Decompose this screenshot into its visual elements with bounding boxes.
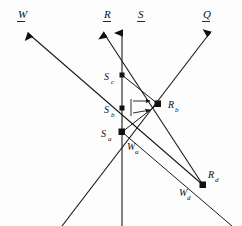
- axis-label-Q-text: Q: [203, 8, 211, 20]
- axis-label-Q: Q: [202, 8, 211, 22]
- node-label-Wa-sub: a: [135, 148, 139, 156]
- node-label-Rd-sub: d: [215, 176, 219, 184]
- axis-label-W: W: [17, 8, 28, 22]
- node-label-Wa: W a: [127, 141, 139, 156]
- node-label-Rb: R b: [167, 99, 179, 114]
- node-Rd: [200, 182, 207, 189]
- axis-label-S: S: [137, 8, 145, 22]
- node-label-Rb-base: R: [167, 99, 174, 110]
- vector-ray-diagram: W R S Q S c S b S a R b: [0, 0, 242, 226]
- node-Sa: [119, 129, 126, 136]
- node-Rb: [155, 101, 162, 108]
- axis-label-S-text: S: [138, 8, 144, 20]
- node-label-Sa-base: S: [101, 128, 106, 139]
- node-label-Sa: S a: [101, 128, 112, 143]
- connector-Sc-Rb: [122, 75, 158, 104]
- node-label-Sc-base: S: [104, 71, 109, 82]
- node-Sb: [120, 106, 125, 111]
- axis-label-R-text: R: [103, 8, 111, 20]
- node-label-Sb-base: S: [104, 104, 109, 115]
- node-label-Rd: R d: [207, 169, 219, 184]
- node-label-Sa-sub: a: [108, 135, 112, 143]
- node-label-Rd-base: R: [207, 169, 214, 180]
- axis-label-R: R: [103, 8, 111, 22]
- node-Sc: [120, 73, 125, 78]
- node-label-Sc: S c: [104, 71, 115, 86]
- node-label-Rb-sub: b: [175, 106, 179, 114]
- connector-Sa-Rb: [122, 104, 158, 132]
- dimension-marks-Sb-Rb: [131, 99, 150, 116]
- axis-label-W-text: W: [18, 8, 28, 20]
- node-label-Sc-sub: c: [111, 78, 115, 86]
- node-label-Sb: S b: [104, 104, 115, 119]
- node-label-Sb-sub: b: [111, 111, 115, 119]
- node-label-Wd-sub: d: [187, 194, 191, 202]
